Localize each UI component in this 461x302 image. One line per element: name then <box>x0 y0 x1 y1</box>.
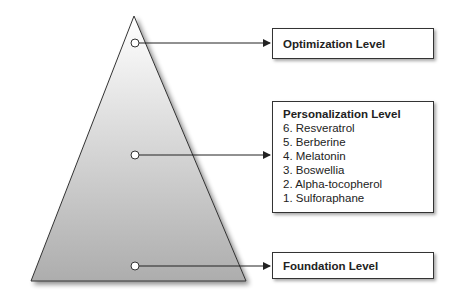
personalization-level-box: Personalization Level 6. Resveratrol 5. … <box>272 101 434 213</box>
node-personalization <box>131 151 139 159</box>
list-item: 3. Boswellia <box>283 163 423 177</box>
list-item: 2. Alpha-tocopherol <box>283 177 423 191</box>
optimization-level-box: Optimization Level <box>272 28 434 59</box>
list-item: 4. Melatonin <box>283 149 423 163</box>
node-optimization <box>131 39 139 47</box>
list-item: 6. Resveratrol <box>283 121 423 135</box>
list-item: 5. Berberine <box>283 135 423 149</box>
optimization-level-title: Optimization Level <box>283 37 423 51</box>
foundation-level-title: Foundation Level <box>283 259 423 273</box>
foundation-level-box: Foundation Level <box>272 252 434 279</box>
pyramid <box>31 16 246 281</box>
personalization-level-title: Personalization Level <box>283 107 423 121</box>
list-item: 1. Sulforaphane <box>283 191 423 205</box>
node-foundation <box>131 262 139 270</box>
